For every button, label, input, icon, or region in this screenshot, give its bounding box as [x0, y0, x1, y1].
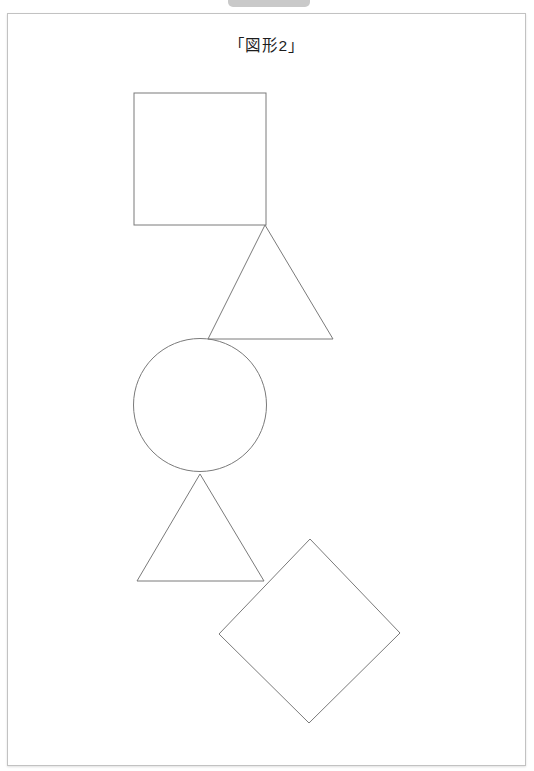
- shape-diamond: [219, 539, 400, 723]
- shape-triangle-lower: [137, 474, 264, 581]
- shape-group: [134, 93, 401, 723]
- document-page: 「図形2」: [7, 13, 526, 766]
- toolbar-chip[interactable]: [228, 0, 310, 7]
- shape-square: [134, 93, 266, 225]
- shape-circle: [134, 339, 267, 472]
- shape-triangle-upper: [208, 225, 333, 339]
- figure-canvas: [8, 14, 527, 767]
